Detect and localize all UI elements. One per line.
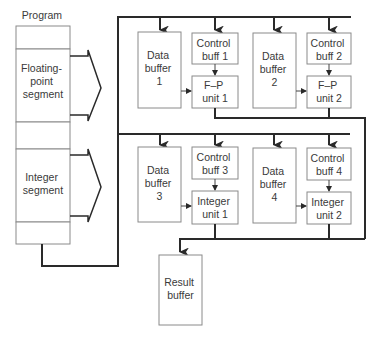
svg-text:F–P unit 2: F–P unit 2 [316, 79, 342, 104]
fp-unit-group-2: Data buffer 2 Control buff 2 F–P unit 2 [253, 33, 351, 108]
program-segment-blank-top [16, 26, 70, 49]
svg-text:F–P unit 1: F–P unit 1 [202, 79, 228, 104]
svg-text:Integer unit 2: Integer unit 2 [311, 196, 347, 221]
program-segment-blank-mid [16, 122, 70, 149]
result-buffer-label: Result buffer [164, 276, 197, 301]
result-bus [180, 239, 365, 252]
fp-unit-group-1: Data buffer 1 Control buff 1 F–P unit 1 [138, 32, 238, 108]
program-title: Program [22, 9, 63, 21]
svg-text:Integer unit 1: Integer unit 1 [197, 195, 233, 220]
svg-text:Control buff 2: Control buff 2 [311, 37, 348, 62]
pipeline-diagram: Program Floating- point segment Integer … [0, 0, 375, 338]
svg-text:Control buff 3: Control buff 3 [197, 151, 234, 176]
integer-dispatch-arrow-icon [70, 149, 101, 222]
integer-segment-label: Integer segment [23, 171, 63, 196]
floating-point-dispatch-arrow-icon [70, 50, 101, 121]
svg-text:Control buff 4: Control buff 4 [311, 152, 348, 177]
int-unit-group-1: Data buffer 3 Control buff 3 Integer uni… [138, 147, 238, 224]
program-column: Floating- point segment Integer segment [16, 26, 70, 244]
int-unit-group-2: Data buffer 4 Control buff 4 Integer uni… [253, 148, 351, 224]
program-segment-blank-bottom [16, 222, 70, 244]
svg-text:Control buff 1: Control buff 1 [197, 37, 234, 62]
